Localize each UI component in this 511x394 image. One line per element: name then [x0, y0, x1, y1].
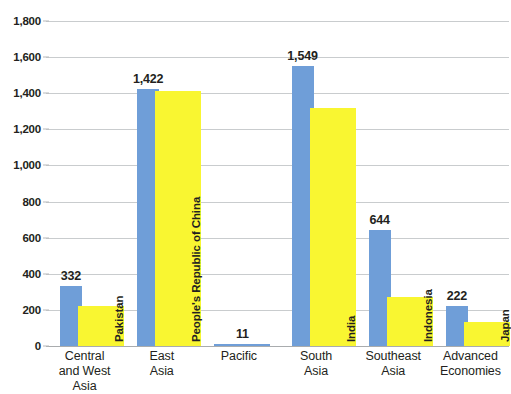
- y-axis-tick-mark: [43, 57, 49, 58]
- y-axis-tick-mark: [43, 237, 49, 238]
- x-axis-category-label: SouthAsia: [278, 349, 355, 379]
- x-axis-label-line: Asia: [278, 364, 355, 379]
- bar-largest-economy: [310, 108, 356, 346]
- y-axis-tick-label: 0: [0, 340, 41, 352]
- bar-group: 644Indonesia: [355, 21, 432, 346]
- y-axis-tick-mark: [43, 21, 49, 22]
- bar-value-label: 644: [361, 213, 399, 227]
- y-axis-tick-label: 200: [0, 304, 41, 316]
- x-axis-label-line: Asia: [355, 364, 432, 379]
- y-axis-tick-mark: [43, 93, 49, 94]
- y-axis-tick-label: 1,800: [0, 15, 41, 27]
- bar-value-label: 222: [438, 289, 476, 303]
- x-axis-label-line: Economies: [432, 364, 509, 379]
- x-axis-category-label: AdvancedEconomies: [432, 349, 509, 379]
- y-axis-tick-mark: [43, 309, 49, 310]
- x-axis-category-label: SoutheastAsia: [355, 349, 432, 379]
- bar-value-label: 1,422: [129, 72, 167, 86]
- y-axis-tick-label: 1,200: [0, 123, 41, 135]
- y-axis-tick-mark: [43, 201, 49, 202]
- bar-value-label: 1,549: [284, 49, 322, 63]
- y-axis-tick-label: 600: [0, 232, 41, 244]
- plot-area: 332Pakistan1,422People's Republic of Chi…: [46, 21, 509, 346]
- bar-group: 1,549India: [278, 21, 355, 346]
- x-axis-label-line: Pacific: [200, 349, 277, 364]
- bar-value-label: 11: [214, 327, 270, 341]
- y-axis-tick-label: 1,000: [0, 159, 41, 171]
- x-axis-label-line: East: [123, 349, 200, 364]
- x-axis-labels: Centraland WestAsiaEastAsiaPacificSouthA…: [46, 349, 509, 387]
- axis-baseline: [46, 346, 509, 347]
- y-axis-tick-mark: [43, 273, 49, 274]
- bar-group: 332Pakistan: [46, 21, 123, 346]
- x-axis-label-line: Southeast: [355, 349, 432, 364]
- y-axis-tick-label: 400: [0, 268, 41, 280]
- bar-region-total: [214, 344, 270, 346]
- x-axis-category-label: Centraland WestAsia: [46, 349, 123, 394]
- x-axis-category-label: EastAsia: [123, 349, 200, 379]
- x-axis-label-line: Advanced: [432, 349, 509, 364]
- x-axis-label-line: Asia: [123, 364, 200, 379]
- y-axis: 1,8001,6001,4001,2001,0008006004002000: [0, 21, 41, 346]
- bar-group: 1,422People's Republic of China: [123, 21, 200, 346]
- y-axis-tick-label: 1,400: [0, 87, 41, 99]
- bar-country-label: Japan: [499, 309, 511, 342]
- x-axis-label-line: and West: [46, 364, 123, 379]
- bar-group: 222Japan: [432, 21, 509, 346]
- x-axis-category-label: Pacific: [200, 349, 277, 364]
- x-axis-label-line: South: [278, 349, 355, 364]
- y-axis-tick-mark: [43, 129, 49, 130]
- x-axis-label-line: Central: [46, 349, 123, 364]
- y-axis-tick-mark: [43, 346, 49, 347]
- x-axis-label-line: Asia: [46, 379, 123, 394]
- bar-value-label: 332: [52, 269, 90, 283]
- y-axis-tick-label: 1,600: [0, 51, 41, 63]
- y-axis-tick-label: 800: [0, 196, 41, 208]
- bar-group: 11: [200, 21, 277, 346]
- y-axis-tick-mark: [43, 165, 49, 166]
